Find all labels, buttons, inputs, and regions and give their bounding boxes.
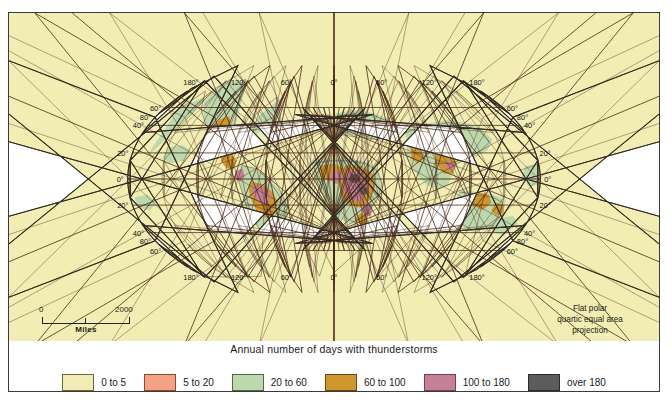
latitude-label-right: 20° bbox=[540, 149, 551, 158]
map-legend: 0 to 55 to 2020 to 6060 to 100100 to 180… bbox=[9, 365, 659, 399]
projection-note: Flat polar quartic equal area projection bbox=[535, 303, 645, 336]
longitude-label-top: 180° bbox=[469, 78, 485, 87]
scale-units-label: Miles bbox=[39, 325, 133, 334]
longitude-label-top: 60° bbox=[376, 78, 387, 87]
longitude-label-top: 120° bbox=[231, 78, 247, 87]
legend-item: over 180 bbox=[528, 374, 606, 391]
legend-label: 20 to 60 bbox=[271, 377, 307, 388]
latitude-label-left: 80° bbox=[140, 237, 151, 246]
latitude-label-right: 80° bbox=[517, 237, 528, 246]
map-canvas: 180°180°120°120°60°60°0°0°60°60°120°120°… bbox=[9, 13, 659, 341]
legend-swatch bbox=[232, 374, 264, 391]
world-map-svg: 180°180°120°120°60°60°0°0°60°60°120°120°… bbox=[9, 13, 659, 341]
legend-swatch bbox=[528, 374, 560, 391]
map-figure: 180°180°120°120°60°60°0°0°60°60°120°120°… bbox=[8, 12, 660, 392]
scale-min-label: 0 bbox=[39, 305, 43, 314]
longitude-label-top: 180° bbox=[183, 78, 199, 87]
latitude-label-left: 60° bbox=[150, 247, 161, 256]
longitude-label-bottom: 180° bbox=[469, 273, 485, 282]
legend-item: 100 to 180 bbox=[424, 374, 510, 391]
scale-max-label: 2000 bbox=[115, 305, 133, 314]
legend-label: over 180 bbox=[567, 377, 606, 388]
latitude-label-right: 20° bbox=[540, 201, 551, 210]
longitude-label-bottom: 120° bbox=[422, 273, 438, 282]
longitude-label-bottom: 120° bbox=[231, 273, 247, 282]
latitude-label-left: 20° bbox=[117, 149, 128, 158]
latitude-label-left: 0° bbox=[117, 175, 124, 184]
latitude-label-left: 20° bbox=[117, 201, 128, 210]
legend-label: 100 to 180 bbox=[463, 377, 510, 388]
longitude-label-bottom: 60° bbox=[376, 273, 387, 282]
latitude-label-left: 40° bbox=[133, 121, 144, 130]
projection-note-line-3: projection bbox=[535, 325, 645, 336]
legend-label: 0 to 5 bbox=[101, 377, 126, 388]
latitude-label-left: 80° bbox=[140, 113, 151, 122]
legend-label: 5 to 20 bbox=[183, 377, 214, 388]
latitude-label-right: 60° bbox=[507, 104, 518, 113]
latitude-label-right: 40° bbox=[524, 229, 535, 238]
scale-bar-graphic bbox=[39, 317, 159, 324]
legend-item: 60 to 100 bbox=[325, 374, 406, 391]
longitude-label-bottom: 60° bbox=[281, 273, 292, 282]
longitude-label-top: 60° bbox=[281, 78, 292, 87]
longitude-label-top: 0° bbox=[330, 78, 337, 87]
latitude-label-right: 40° bbox=[524, 121, 535, 130]
legend-label: 60 to 100 bbox=[364, 377, 406, 388]
legend-item: 0 to 5 bbox=[62, 374, 126, 391]
latitude-label-left: 60° bbox=[150, 104, 161, 113]
latitude-label-right: 0° bbox=[544, 175, 551, 184]
longitude-label-top: 120° bbox=[422, 78, 438, 87]
projection-note-line-2: quartic equal area bbox=[535, 314, 645, 325]
map-title: Annual number of days with thunderstorms bbox=[9, 343, 659, 355]
longitude-label-bottom: 180° bbox=[183, 273, 199, 282]
projection-note-line-1: Flat polar bbox=[535, 303, 645, 314]
legend-swatch bbox=[424, 374, 456, 391]
legend-swatch bbox=[325, 374, 357, 391]
longitude-label-bottom: 0° bbox=[330, 273, 337, 282]
legend-swatch bbox=[62, 374, 94, 391]
legend-item: 20 to 60 bbox=[232, 374, 307, 391]
latitude-label-left: 40° bbox=[133, 229, 144, 238]
legend-item: 5 to 20 bbox=[144, 374, 214, 391]
latitude-label-right: 80° bbox=[517, 113, 528, 122]
latitude-label-right: 60° bbox=[507, 247, 518, 256]
scale-bar: 0 2000 Miles bbox=[39, 305, 159, 334]
legend-swatch bbox=[144, 374, 176, 391]
